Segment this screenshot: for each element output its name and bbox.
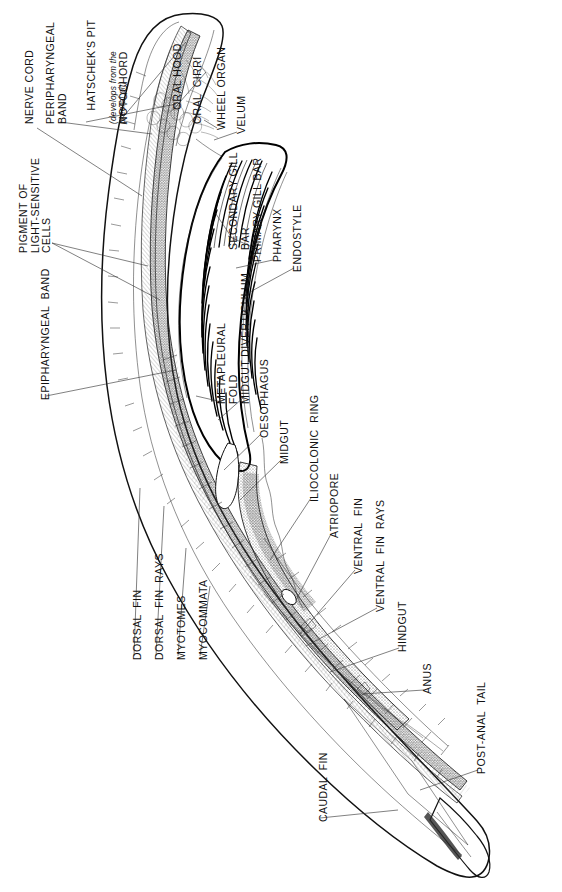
label-myotomes: MYOTOMES — [176, 595, 188, 660]
caudal-fin — [424, 798, 490, 877]
label-wheel-organ: WHEEL ORGAN — [216, 47, 228, 130]
label-midgut-diverticulum: MIDGUT DIVERTICULUM — [240, 273, 252, 404]
label-nerve-cord: NERVE CORD — [24, 50, 36, 124]
label-metapleural-fold: METAPLEURAL FOLD — [216, 323, 239, 404]
label-pigment-of-light-sensitive-cells: PIGMENT OF LIGHT-SENSITIVE CELLS — [18, 158, 53, 253]
label-oral-hood: ORAL HOOD — [172, 43, 184, 110]
label-ventral-fin: VENTRAL FIN — [353, 498, 365, 574]
label-dorsal-fin: DORSAL FIN — [132, 590, 144, 661]
nerve-cord — [141, 26, 462, 803]
label-post-anal-tail: POST-ANAL TAIL — [476, 682, 488, 774]
label-hatscheks-pit: HATSCHEK'S PIT (develops from the preora… — [74, 20, 150, 124]
label-ventral-fin-rays: VENTRAL FIN RAYS — [375, 499, 387, 612]
label-primary-gill-bar: PRIMARY GILL BAR — [252, 158, 264, 262]
label-caudal-fin: CAUDAL FIN — [318, 752, 330, 822]
label-endostyle: ENDOSTYLE — [292, 204, 304, 272]
label-velum: VELUM — [236, 96, 248, 134]
label-myocommata: MYOCOMMATA — [198, 579, 210, 660]
label-atriopore: ATRIOPORE — [329, 473, 341, 538]
label-dorsal-fin-rays: DORSAL FIN RAYS — [154, 553, 166, 660]
label-oesophagus: OESOPHAGUS — [259, 359, 271, 438]
figure-canvas: NERVE CORD PERIPHARYNGEAL BAND HATSCHEK'… — [0, 0, 562, 892]
label-anus: ANUS — [422, 663, 434, 694]
label-secondary-gill-bar: SECONDARY GILL BAR — [228, 152, 251, 250]
label-peripharyngeal-band: PERIPHARYNGEAL BAND — [45, 22, 68, 124]
label-oral-cirri: ORAL CIRRI — [192, 56, 204, 124]
label-pharynx: PHARYNX — [272, 208, 284, 262]
label-hindgut: HINDGUT — [397, 601, 409, 652]
label-notochord: NOTOCHORD — [118, 51, 130, 124]
label-epipharyngeal-band: EPIPHARYNGEAL BAND — [40, 268, 52, 400]
label-iliocolonic-ring: ILIOCOLONIC RING — [309, 395, 321, 502]
label-midgut: MIDGUT — [279, 420, 291, 464]
label-hatscheks-pit-text: HATSCHEK'S PIT — [85, 20, 97, 111]
